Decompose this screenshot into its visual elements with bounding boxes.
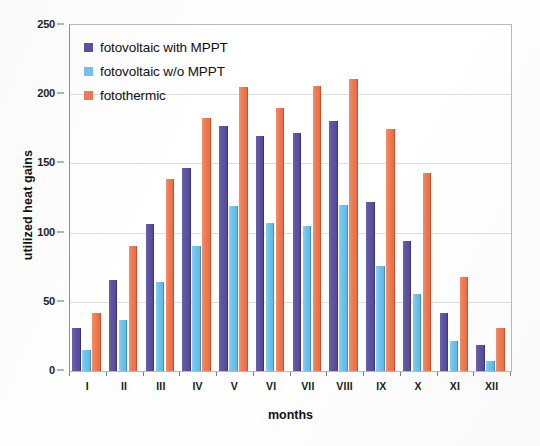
y-tick-mark: [57, 231, 64, 232]
bar-VI-series-2: [276, 108, 285, 371]
bar-VIII-series-2: [349, 79, 358, 371]
y-tick-mark: [57, 162, 64, 163]
bar-XI-series-1: [450, 341, 459, 371]
x-tick-mark: [400, 372, 401, 376]
x-tick-mark: [143, 372, 144, 376]
x-tick-label-II: II: [121, 380, 127, 392]
bar-VI-series-1: [266, 223, 275, 371]
bar-XII-series-1: [486, 361, 495, 371]
x-tick-label-VII: VII: [301, 380, 314, 392]
x-tick-label-XII: XII: [485, 380, 498, 392]
x-tick-mark: [216, 372, 217, 376]
bar-II-series-0: [109, 280, 118, 371]
x-tick-label-VI: VI: [266, 380, 276, 392]
legend-item-0: fotovoltaic with MPPT: [84, 36, 228, 58]
bar-III-series-0: [146, 224, 155, 371]
y-tick-mark: [57, 93, 64, 94]
bar-V-series-1: [229, 206, 238, 371]
bar-I-series-0: [72, 328, 81, 371]
y-tick-mark: [57, 300, 64, 301]
legend-label: fotovoltaic w/o MPPT: [100, 64, 225, 79]
legend-item-1: fotovoltaic w/o MPPT: [84, 60, 228, 82]
x-tick-label-IV: IV: [192, 380, 202, 392]
bar-II-series-2: [129, 246, 138, 371]
bar-VI-series-0: [256, 136, 265, 371]
x-tick-label-IX: IX: [376, 380, 386, 392]
bar-X-series-2: [423, 173, 432, 371]
chart-legend: fotovoltaic with MPPTfotovoltaic w/o MPP…: [84, 36, 228, 108]
x-tick-label-X: X: [415, 380, 422, 392]
bar-XII-series-2: [496, 328, 505, 371]
bar-V-series-0: [219, 126, 228, 371]
x-tick-label-I: I: [86, 380, 89, 392]
bar-I-series-2: [92, 313, 101, 371]
bar-XI-series-0: [440, 313, 449, 371]
y-axis-title: utilized heat gains: [21, 80, 35, 330]
chart-figure: 050100150200250 utilized heat gains IIII…: [0, 0, 540, 446]
x-axis: IIIIIIIVVVIVIIVIIIIXXXIXII: [69, 372, 512, 432]
bar-VIII-series-1: [339, 205, 348, 371]
bar-V-series-2: [239, 87, 248, 371]
x-tick-mark: [290, 372, 291, 376]
bar-VII-series-1: [303, 226, 312, 371]
y-tick-mark: [57, 370, 64, 371]
x-tick-mark: [437, 372, 438, 376]
gridline: [70, 163, 511, 164]
x-tick-mark: [363, 372, 364, 376]
bar-IV-series-2: [202, 118, 211, 371]
x-tick-mark: [326, 372, 327, 376]
bar-X-series-0: [403, 241, 412, 371]
x-tick-mark: [473, 372, 474, 376]
bar-IV-series-1: [192, 246, 201, 371]
x-tick-label-V: V: [231, 380, 238, 392]
bar-II-series-1: [119, 320, 128, 371]
bar-X-series-1: [413, 294, 422, 372]
legend-item-2: fotothermic: [84, 84, 228, 106]
y-tick-mark: [57, 24, 64, 25]
legend-label: fotothermic: [100, 88, 166, 103]
legend-swatch-icon: [84, 43, 93, 52]
bar-XI-series-2: [460, 277, 469, 371]
bar-IX-series-2: [386, 129, 395, 371]
x-tick-mark: [179, 372, 180, 376]
x-tick-mark: [69, 372, 70, 376]
x-tick-label-III: III: [156, 380, 165, 392]
bar-IX-series-0: [366, 202, 375, 371]
x-axis-title: months: [69, 408, 512, 422]
x-tick-label-XI: XI: [450, 380, 460, 392]
bar-III-series-2: [166, 179, 175, 371]
bar-III-series-1: [156, 282, 165, 371]
legend-label: fotovoltaic with MPPT: [100, 40, 228, 55]
bar-IV-series-0: [182, 168, 191, 371]
bar-I-series-1: [82, 350, 91, 371]
bar-VII-series-2: [313, 86, 322, 371]
bar-IX-series-1: [376, 266, 385, 371]
bar-VII-series-0: [293, 133, 302, 371]
bar-XII-series-0: [476, 345, 485, 371]
x-tick-mark: [106, 372, 107, 376]
legend-swatch-icon: [84, 67, 93, 76]
legend-swatch-icon: [84, 91, 93, 100]
x-tick-label-VIII: VIII: [336, 380, 353, 392]
bar-VIII-series-0: [329, 121, 338, 372]
gridline: [70, 233, 511, 234]
y-tick-label: 0: [15, 364, 55, 376]
x-tick-mark: [510, 372, 511, 376]
y-tick-label: 250: [15, 18, 55, 30]
x-tick-mark: [253, 372, 254, 376]
